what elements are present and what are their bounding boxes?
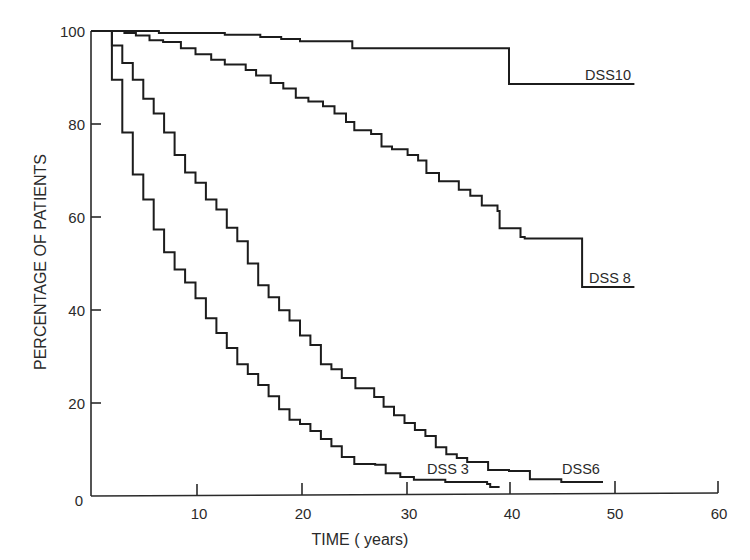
series-label-dss10: DSS10 [585, 67, 631, 83]
series-label-dss8: DSS 8 [589, 270, 631, 286]
series-lines [91, 31, 634, 487]
x-tick-labels: 10 20 30 40 50 60 [191, 505, 728, 522]
y-tick-label-100: 100 [60, 23, 85, 40]
x-tick-label-10: 10 [191, 505, 208, 522]
series-label-dss6: DSS6 [562, 461, 600, 477]
x-tick-label-60: 60 [711, 505, 728, 522]
survival-chart: 100 80 60 40 20 0 10 20 30 40 50 60 TIME… [0, 0, 750, 560]
y-tick-label-20: 20 [68, 395, 85, 412]
x-tick-label-50: 50 [607, 505, 624, 522]
x-tick-label-20: 20 [295, 505, 312, 522]
series-dss6-line [91, 31, 603, 482]
y-tick-label-80: 80 [68, 116, 85, 133]
x-tick-label-40: 40 [504, 505, 521, 522]
axes [91, 31, 718, 496]
y-tick-labels: 100 80 60 40 20 0 [60, 23, 85, 509]
x-axis [91, 493, 718, 496]
y-axis-title: PERCENTAGE OF PATIENTS [32, 154, 49, 370]
y-tick-label-0: 0 [75, 492, 83, 509]
y-tick-label-60: 60 [68, 209, 85, 226]
series-dss8-line [91, 31, 634, 287]
x-tick-label-30: 30 [401, 505, 418, 522]
x-axis-title: TIME ( years) [312, 531, 409, 548]
series-dss10-line [91, 31, 634, 84]
y-tick-label-40: 40 [68, 302, 85, 319]
series-label-dss3: DSS 3 [427, 461, 469, 477]
